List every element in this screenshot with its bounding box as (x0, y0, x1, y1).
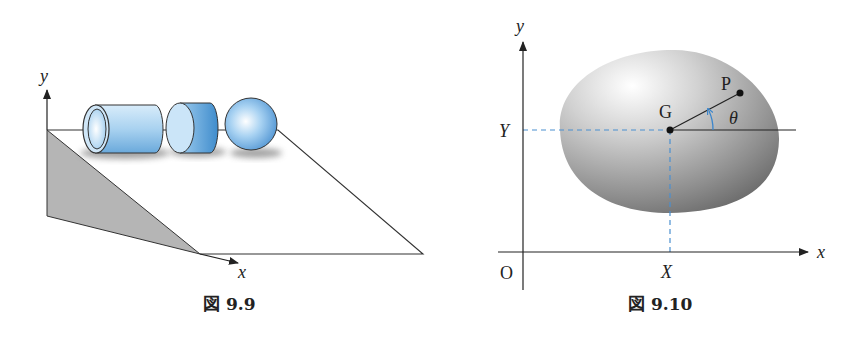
sphere (225, 98, 277, 150)
y-axis-label: y (514, 16, 524, 36)
origin-label: O (500, 263, 513, 283)
figure-caption-9-9: 図 9.9 (203, 290, 256, 315)
x-axis-label: x (237, 262, 246, 282)
point-p (737, 90, 744, 97)
figure-caption-9-10: 図 9.10 (628, 290, 692, 315)
figure-9-9: y x (38, 66, 423, 282)
y-axis-label: y (38, 66, 48, 86)
y-coordinate-label: Y (499, 121, 511, 141)
g-label: G (659, 102, 672, 122)
p-label: P (721, 74, 731, 94)
figure-9-10: y x O G P θ Y X (498, 16, 825, 290)
hollow-cylinder (83, 105, 163, 153)
solid-cylinder (166, 103, 218, 153)
theta-label: θ (729, 108, 738, 128)
x-axis (200, 254, 238, 263)
x-coordinate-label: X (660, 262, 673, 282)
x-axis-label: x (816, 242, 825, 262)
figures-canvas: y x y x O G P θ Y X (0, 0, 855, 339)
point-g (667, 127, 674, 134)
